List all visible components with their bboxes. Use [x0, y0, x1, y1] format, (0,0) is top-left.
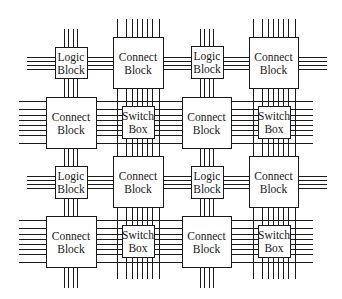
connect-block: ConnectBlock	[47, 217, 97, 268]
switch-box-label: Switch	[122, 229, 154, 241]
connect-block-label: Connect	[52, 230, 91, 242]
switch-box-label: Switch	[122, 110, 154, 122]
connect-block-label: Connect	[119, 51, 158, 63]
connect-block-label: Block	[260, 183, 288, 195]
connect-block-label: Block	[57, 243, 85, 255]
switch-box-label: Switch	[258, 229, 290, 241]
connect-block: ConnectBlock	[250, 38, 299, 89]
switch-box-label: Switch	[258, 110, 290, 122]
connect-block-label: Connect	[187, 230, 226, 242]
logic-block-label: Logic	[194, 170, 221, 183]
logic-block: LogicBlock	[192, 47, 224, 79]
connect-block: ConnectBlock	[114, 38, 164, 89]
connect-block-label: Block	[57, 124, 85, 136]
switch-box: SwitchBox	[122, 107, 154, 139]
blocks-layer: LogicBlockConnectBlockLogicBlockConnectB…	[47, 38, 299, 268]
connect-block: ConnectBlock	[183, 98, 232, 149]
switch-box-label: Box	[128, 242, 147, 254]
logic-block: LogicBlock	[56, 48, 88, 79]
connect-block-label: Block	[124, 183, 152, 195]
logic-block-label: Logic	[58, 170, 85, 183]
connect-block: ConnectBlock	[250, 157, 299, 208]
connect-block: ConnectBlock	[47, 98, 97, 149]
logic-block-label: Block	[57, 183, 85, 195]
connect-block-label: Block	[193, 243, 221, 255]
connect-block: ConnectBlock	[183, 217, 232, 268]
switch-box: SwitchBox	[122, 226, 154, 258]
logic-block-label: Block	[193, 63, 221, 75]
connect-block-label: Block	[193, 124, 221, 136]
switch-box-label: Box	[128, 123, 147, 135]
fpga-routing-diagram: LogicBlockConnectBlockLogicBlockConnectB…	[0, 0, 342, 299]
switch-box-label: Box	[264, 123, 283, 135]
connect-block: ConnectBlock	[114, 157, 164, 208]
connect-block-label: Connect	[187, 111, 226, 123]
connect-block-label: Block	[124, 64, 152, 76]
logic-block-label: Block	[57, 64, 85, 76]
connect-block-label: Block	[260, 64, 288, 76]
logic-block: LogicBlock	[192, 167, 224, 199]
logic-block-label: Logic	[194, 50, 221, 63]
logic-block-label: Block	[193, 183, 221, 195]
logic-block: LogicBlock	[56, 167, 88, 199]
switch-box: SwitchBox	[258, 107, 290, 139]
switch-box-label: Box	[264, 242, 283, 254]
connect-block-label: Connect	[254, 170, 293, 182]
switch-box: SwitchBox	[258, 226, 290, 258]
connect-block-label: Connect	[119, 170, 158, 182]
logic-block-label: Logic	[58, 51, 85, 64]
connect-block-label: Connect	[254, 51, 293, 63]
connect-block-label: Connect	[52, 111, 91, 123]
